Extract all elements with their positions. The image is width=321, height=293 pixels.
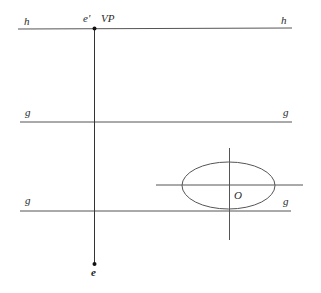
perspective-diagram: h h g g g g e' VP e O	[0, 0, 321, 293]
eye-projection-label: e'	[83, 12, 91, 24]
ground-upper-right-label: g	[283, 106, 289, 118]
ground-lower-right-label: g	[283, 195, 289, 207]
vanishing-point-dot	[93, 27, 97, 31]
ground-lower-left-label: g	[25, 194, 31, 206]
horizon-right-label: h	[281, 14, 287, 26]
ellipse-center-label: O	[234, 189, 242, 201]
ground-upper-left-label: g	[25, 106, 31, 118]
vanishing-point-label: VP	[101, 12, 115, 24]
horizon-line	[18, 28, 292, 29]
horizon-left-label: h	[24, 15, 30, 27]
eye-point-label: e	[91, 266, 96, 278]
